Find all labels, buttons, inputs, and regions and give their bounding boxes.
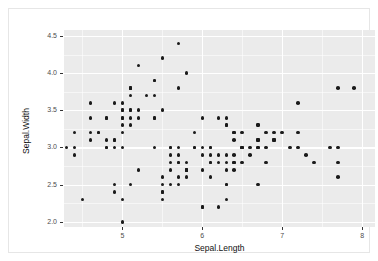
- y-tick-mark: [60, 36, 63, 37]
- x-axis-title: Sepal.Length: [64, 243, 375, 253]
- plot-frame: 2.02.53.03.54.04.5 5678 Sepal.Length Sep…: [8, 8, 370, 253]
- x-tick-label: 7: [272, 232, 292, 240]
- x-tick-mark: [202, 227, 203, 230]
- x-axis: 5678: [9, 9, 378, 261]
- y-tick-mark: [60, 147, 63, 148]
- chart-figure: 2.02.53.03.54.04.5 5678 Sepal.Length Sep…: [0, 0, 378, 261]
- y-tick-mark: [60, 110, 63, 111]
- x-tick-mark: [362, 227, 363, 230]
- y-tick-mark: [60, 73, 63, 74]
- x-tick-label: 8: [352, 232, 372, 240]
- y-axis-title: Sepal.Width: [21, 91, 31, 171]
- x-tick-mark: [122, 227, 123, 230]
- x-tick-mark: [282, 227, 283, 230]
- y-tick-mark: [60, 185, 63, 186]
- x-tick-label: 6: [192, 232, 212, 240]
- x-tick-label: 5: [112, 232, 132, 240]
- y-tick-mark: [60, 222, 63, 223]
